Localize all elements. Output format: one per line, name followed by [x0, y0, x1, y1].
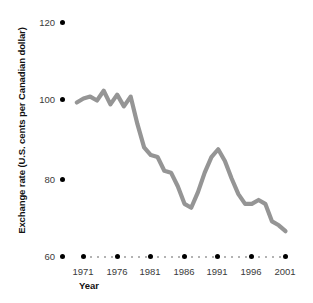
- chart-plot-area: [0, 0, 313, 303]
- data-series-line: [77, 91, 286, 231]
- chart-figure: Exchange rate (U.S. cents per Canadian d…: [0, 0, 313, 303]
